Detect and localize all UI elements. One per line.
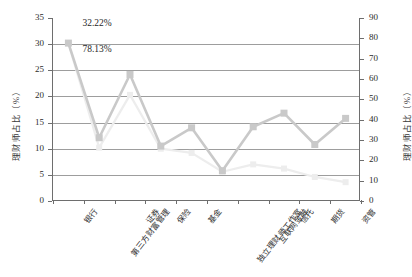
right-tick-label: 50 — [369, 93, 391, 103]
series-marker — [127, 71, 134, 78]
series-marker — [127, 92, 133, 98]
right-axis-title: 理财师占比（%） — [400, 76, 412, 172]
series-marker — [311, 141, 318, 148]
right-tick-label: 80 — [369, 32, 391, 42]
data-point-label: 78.13% — [82, 44, 111, 54]
series-marker — [250, 161, 256, 167]
series-marker — [157, 143, 164, 150]
right-tick-label: 60 — [369, 73, 391, 83]
x-category-label: 银行 — [82, 206, 101, 226]
right-tick-label: 0 — [369, 195, 391, 205]
series-marker — [281, 166, 287, 172]
series-marker — [96, 145, 102, 151]
left-tick-label: 10 — [22, 143, 44, 153]
x-category-label: 期货 — [328, 206, 347, 226]
series-marker — [219, 167, 226, 174]
x-category-label: 资管 — [359, 206, 378, 226]
right-tick-label: 40 — [369, 114, 391, 124]
left-tick-label: 25 — [22, 64, 44, 74]
series-marker — [96, 134, 103, 141]
series-marker — [312, 174, 318, 180]
right-tick-label: 90 — [369, 12, 391, 22]
right-tick-label: 70 — [369, 53, 391, 63]
data-point-label: 32.22% — [82, 18, 111, 28]
left-tick-label: 20 — [22, 90, 44, 100]
series-marker — [342, 115, 349, 122]
series-marker — [343, 179, 349, 185]
left-tick-label: 30 — [22, 38, 44, 48]
left-tick-mark — [48, 201, 52, 202]
series-marker — [189, 150, 195, 156]
left-axis-title: 理财师占比（%） — [9, 76, 21, 172]
series-marker — [250, 123, 257, 130]
series-line — [68, 43, 345, 171]
right-tick-label: 30 — [369, 134, 391, 144]
series-marker — [281, 110, 288, 117]
series-marker — [188, 124, 195, 131]
right-tick-label: 10 — [369, 175, 391, 185]
left-tick-label: 5 — [22, 169, 44, 179]
x-tick-mark — [361, 200, 362, 204]
right-tick-label: 20 — [369, 154, 391, 164]
left-tick-label: 0 — [22, 195, 44, 205]
left-tick-label: 15 — [22, 117, 44, 127]
series-marker — [65, 40, 72, 47]
x-category-label: 保险 — [174, 206, 193, 226]
left-tick-label: 35 — [22, 12, 44, 22]
x-category-label: 基金 — [205, 206, 224, 226]
